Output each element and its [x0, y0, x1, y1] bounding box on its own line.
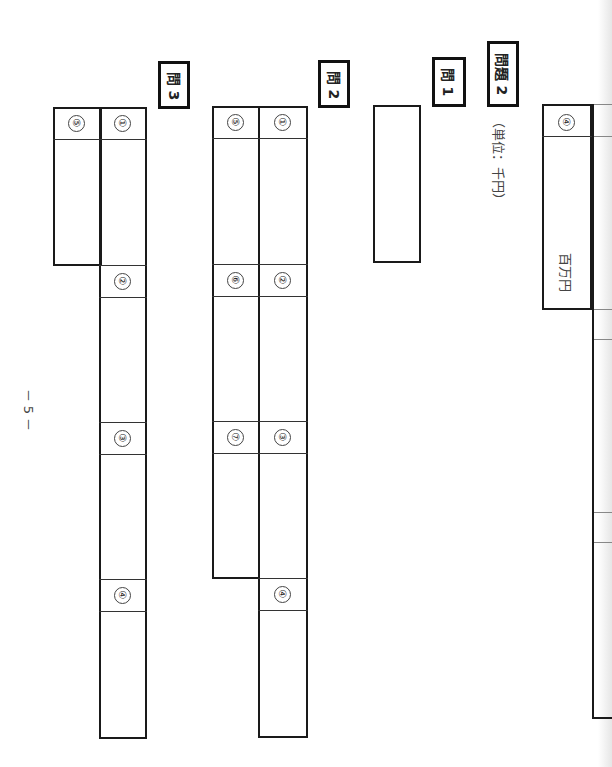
q2-cell-7-number: ⑦ — [226, 422, 246, 452]
q2-answer-7[interactable] — [214, 455, 257, 577]
q2-answer-4[interactable] — [260, 612, 306, 736]
prev-answer-field[interactable] — [544, 138, 590, 308]
q3-cell-4-number: ④ — [113, 580, 133, 610]
q3-answer-2[interactable] — [101, 299, 145, 421]
q2-cell-6-number: ⑥ — [226, 265, 246, 295]
problem-2-tag: 問題 2 — [487, 41, 519, 107]
unit-note: （単位：千円） — [490, 100, 510, 220]
q2-cell-2-number: ② — [273, 265, 293, 295]
q2-answer-5[interactable] — [214, 140, 257, 263]
page-edge-shadow — [598, 0, 612, 767]
q2-answer-6[interactable] — [214, 298, 257, 420]
q1-tag: 問 1 — [432, 57, 466, 107]
q3-cell-1-number: ① — [113, 108, 133, 138]
q2-cell-4-number: ④ — [273, 579, 293, 609]
q2-cell-1-number: ① — [273, 107, 293, 137]
prev-cell-number: ④ — [557, 107, 577, 137]
q2-cell-5-number: ⑤ — [226, 107, 246, 137]
q2-answer-3[interactable] — [260, 455, 306, 577]
q3-answer-5[interactable] — [55, 141, 98, 264]
q3-answer-1[interactable] — [101, 141, 145, 264]
q3-answer-4[interactable] — [101, 613, 145, 737]
page-number: － 5 － — [20, 380, 40, 440]
q1-answer-box[interactable] — [373, 105, 421, 263]
q2-cell-3-number: ③ — [273, 422, 293, 452]
q3-cell-5-number: ⑤ — [67, 108, 87, 138]
q3-cell-2-number: ② — [113, 266, 133, 296]
q2-answer-2[interactable] — [260, 298, 306, 420]
q2-answer-1[interactable] — [260, 140, 306, 263]
q2-tag: 問 2 — [318, 60, 350, 108]
q3-cell-3-number: ③ — [113, 423, 133, 453]
q3-tag: 問 3 — [158, 61, 190, 109]
q3-answer-3[interactable] — [101, 456, 145, 578]
